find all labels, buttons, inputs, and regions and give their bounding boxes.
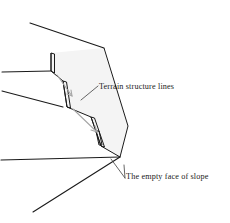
terrain-structure-line-ridge	[30, 23, 104, 48]
terrain-slope-figure: Terrain structure lines The empty face o…	[0, 0, 230, 223]
terrain-structure-line-middle-left	[2, 91, 63, 107]
leader-line-empty-face-b	[124, 165, 125, 178]
terrain-slope-drawing	[0, 0, 230, 223]
leader-line-empty-face-a	[111, 159, 125, 178]
label-terrain-structure-lines: Terrain structure lines	[99, 82, 174, 91]
label-empty-face-of-slope: The empty face of slope	[126, 172, 209, 181]
terrain-structure-line-bottom	[33, 157, 120, 212]
empty-face-of-slope-polygon	[51, 48, 128, 157]
terrain-structure-line-lower-left	[1, 157, 120, 160]
terrain-structure-line-upper-left	[2, 71, 51, 72]
